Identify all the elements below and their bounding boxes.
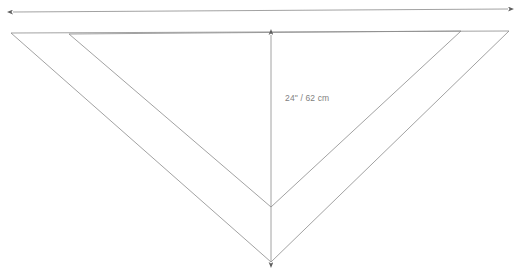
height-dimension-label: 24" / 62 cm — [285, 93, 329, 104]
diagram-canvas: 24" / 62 cm — [0, 0, 520, 274]
width-dimension-arrow — [13, 9, 508, 12]
outer-triangle — [11, 31, 509, 262]
inner-triangle — [69, 31, 461, 207]
scarf-dimension-diagram — [0, 0, 520, 274]
